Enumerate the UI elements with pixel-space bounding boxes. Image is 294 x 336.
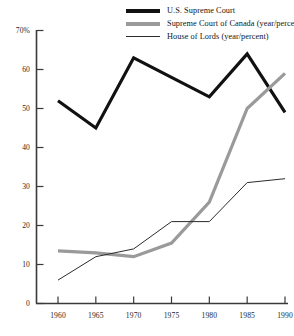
series-line (58, 179, 285, 280)
y-axis-tick-label: 50 (4, 104, 30, 113)
series-line (58, 73, 285, 256)
plot-area (0, 0, 294, 336)
x-axis-tick-label: 1965 (81, 311, 111, 320)
x-axis-tick-label: 1985 (232, 311, 262, 320)
x-axis-tick-label: 1980 (194, 311, 224, 320)
x-axis-ticks (58, 297, 285, 304)
y-axis-tick-label: 20 (4, 221, 30, 230)
y-axis-tick-label: 60 (4, 65, 30, 74)
y-axis-tick-label: 30 (4, 182, 30, 191)
x-axis-tick-label: 1975 (157, 311, 187, 320)
x-axis-tick-label: 1970 (119, 311, 149, 320)
series-line (58, 54, 285, 128)
series-lines (58, 54, 285, 280)
line-chart: U.S. Supreme Court Supreme Court of Cana… (0, 0, 294, 336)
y-axis-tick-label: 10 (4, 260, 30, 269)
y-axis-tick-label: 0 (4, 299, 30, 308)
x-axis-tick-label: 1990 (270, 311, 294, 320)
y-axis-tick-label: 70% (4, 26, 30, 35)
y-axis-ticks (37, 31, 44, 304)
y-axis-tick-label: 40 (4, 143, 30, 152)
x-axis-tick-label: 1960 (43, 311, 73, 320)
